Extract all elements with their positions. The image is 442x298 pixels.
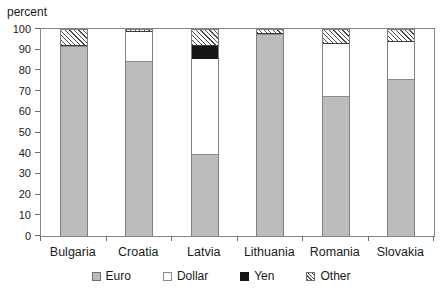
x-axis-tick [171, 236, 172, 241]
bar-segment-other-latvia [192, 30, 218, 46]
y-axis-tick [35, 194, 40, 195]
y-axis-tick-label: 90 [0, 43, 31, 55]
x-axis-tick [433, 236, 434, 241]
bar-latvia [191, 29, 219, 236]
y-axis-tick-label: 100 [0, 23, 31, 35]
y-axis-tick-label: 80 [0, 64, 31, 76]
bar-segment-other-bulgaria [61, 30, 87, 46]
legend: EuroDollarYenOther [0, 269, 442, 283]
bar-segment-other-romania [323, 30, 349, 44]
x-axis-category-label: Bulgaria [40, 245, 106, 259]
bar-romania [322, 29, 350, 236]
legend-item-other: Other [306, 269, 350, 283]
bar-croatia [125, 29, 153, 236]
x-axis-category-label: Croatia [106, 245, 172, 259]
bar-segment-euro-slovakia [388, 79, 414, 236]
y-axis-tick [35, 69, 40, 70]
y-axis-tick-label: 30 [0, 167, 31, 179]
bar-segment-dollar-slovakia [388, 42, 414, 79]
legend-swatch-yen [240, 272, 249, 281]
legend-label-euro: Euro [106, 269, 131, 283]
y-axis-tick-label: 20 [0, 188, 31, 200]
bar-segment-euro-bulgaria [61, 46, 87, 236]
y-axis-tick-label: 50 [0, 126, 31, 138]
bar-lithuania [256, 29, 284, 236]
bar-segment-euro-croatia [126, 61, 152, 236]
legend-item-dollar: Dollar [163, 269, 208, 283]
legend-item-euro: Euro [92, 269, 131, 283]
y-axis-tick-label: 70 [0, 85, 31, 97]
x-axis-category-label: Latvia [171, 245, 237, 259]
y-axis-tick-label: 0 [0, 230, 31, 242]
x-axis-tick [40, 236, 41, 241]
y-axis-tick [35, 214, 40, 215]
plot-area [40, 28, 435, 237]
bar-segment-dollar-latvia [192, 59, 218, 154]
y-axis-title: percent [7, 5, 47, 19]
x-axis-tick [302, 236, 303, 241]
x-axis-tick [237, 236, 238, 241]
legend-swatch-other [306, 272, 315, 281]
bar-segment-other-slovakia [388, 30, 414, 42]
y-axis-tick [35, 111, 40, 112]
y-axis-tick [35, 49, 40, 50]
legend-swatch-dollar [163, 272, 172, 281]
y-axis-tick [35, 90, 40, 91]
y-axis-tick-label: 10 [0, 209, 31, 221]
x-axis-category-label: Lithuania [237, 245, 303, 259]
bar-segment-dollar-croatia [126, 32, 152, 61]
stacked-bar-chart: percent EuroDollarYenOther 0102030405060… [0, 0, 442, 298]
y-axis-tick [35, 173, 40, 174]
bar-segment-yen-latvia [192, 46, 218, 58]
legend-item-yen: Yen [240, 269, 274, 283]
y-axis-tick [35, 28, 40, 29]
y-axis-tick [35, 152, 40, 153]
x-axis-tick [368, 236, 369, 241]
bar-segment-euro-romania [323, 96, 349, 236]
legend-label-other: Other [320, 269, 350, 283]
bar-slovakia [387, 29, 415, 236]
y-axis-tick-label: 60 [0, 105, 31, 117]
y-axis-tick-label: 40 [0, 147, 31, 159]
legend-swatch-euro [92, 272, 101, 281]
legend-label-dollar: Dollar [177, 269, 208, 283]
x-axis-category-label: Slovakia [368, 245, 434, 259]
legend-label-yen: Yen [254, 269, 274, 283]
x-axis-tick [106, 236, 107, 241]
bar-bulgaria [60, 29, 88, 236]
bar-segment-dollar-romania [323, 44, 349, 96]
bar-segment-euro-lithuania [257, 34, 283, 236]
x-axis-category-label: Romania [302, 245, 368, 259]
bar-segment-euro-latvia [192, 154, 218, 236]
y-axis-tick [35, 132, 40, 133]
